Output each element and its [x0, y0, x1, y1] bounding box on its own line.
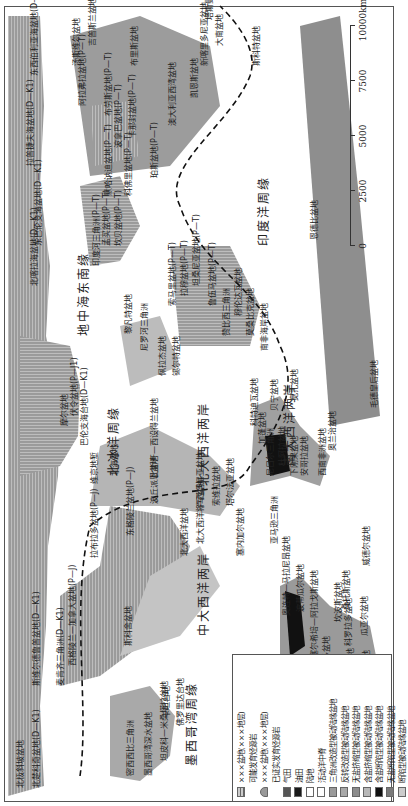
- basin-label: 卡坦台地: [162, 686, 171, 718]
- basin-label: 北大西洋盆地: [180, 508, 189, 556]
- legend-row: 含盐挤缩型被动陆缘盆地: [362, 659, 374, 797]
- oil-swatch: [294, 787, 302, 797]
- basin-label: 塔尔法亚盆地: [226, 458, 235, 506]
- basin-label: 赞比西三角洲: [222, 288, 231, 336]
- legend-row: 已证实发育烃源岩: [270, 659, 282, 797]
- basin-label: 墨西哥湾深水盆地: [144, 712, 153, 776]
- legend-row: 可能发育烃源岩: [247, 659, 259, 797]
- basin-label: 西南非洲盆地: [318, 428, 327, 476]
- basin-label: 下刚果盆地: [290, 436, 299, 476]
- basin-label: 索维拉盆地: [212, 466, 221, 506]
- legend-row: 无盐挤缩型被动陆缘盆地: [350, 659, 362, 797]
- basin-label: 贝宁盆地: [270, 379, 279, 411]
- basin-label: 坎贝盆地(P—T): [114, 190, 123, 246]
- basin-label: 北极斜坡盆地: [16, 740, 25, 788]
- basin-label: 拉穆盆地(P—T): [180, 240, 189, 296]
- basin-label: 穆伦达瓦盆地: [234, 268, 243, 316]
- basin-label: 孟买盆地(P—T): [102, 190, 111, 246]
- basin-label: 默哈讷迪盆地(P—T): [104, 124, 113, 196]
- basin-label: 加蓬盆地: [258, 412, 267, 444]
- indian-ocean-label: 印度洋周缘: [260, 176, 269, 246]
- gulf-mexico-label: 墨西哥湾周缘: [188, 682, 197, 766]
- basin-label: 黎凡特盆地: [124, 294, 133, 334]
- basin-label: 科特迪瓦盆地: [250, 378, 259, 426]
- land-swatch: [306, 787, 314, 797]
- basin-label: 维京地堑: [90, 452, 99, 484]
- ridge-swatch: [317, 787, 325, 797]
- basin-label: 尼日尔三角洲: [266, 428, 275, 476]
- legend-row: 气田: [281, 659, 293, 797]
- legend-row: ×××盆地(×××地层): [235, 659, 247, 797]
- basin-label: 巴伦支海台地(D—K1): [80, 367, 89, 446]
- basin-label: 锡尔特盆地: [172, 336, 181, 376]
- hatch-h-swatch: [237, 787, 245, 797]
- basin-label: 摩尔盆地: [60, 394, 69, 426]
- basin-label: 鲁伍马盆地(P—T): [208, 242, 217, 306]
- basin-label: 佛罗里达台地: [176, 678, 185, 726]
- legend-row: 活动洋中脊: [316, 659, 328, 797]
- basin-label: 科佛里盆地(P—T): [124, 132, 133, 196]
- basin-label: 珀斯盆地(P—T): [150, 122, 159, 178]
- basin-label: 卡那封盆地(P—T): [128, 74, 137, 138]
- basin-label: 莫桑比克盆地: [246, 288, 255, 336]
- basin-label: 东西伯利亚海盆地(D—K1): [30, 0, 39, 76]
- basin-label: 塔斯曼盆地: [205, 0, 214, 20]
- basin-label: 波拿巴盆地(P—T): [114, 84, 123, 148]
- basin-label: 拉布拉多盆地(P—J): [90, 489, 99, 558]
- basin-label: 印度河三角洲(P—T): [92, 194, 101, 266]
- gas-swatch: [283, 787, 291, 797]
- basin-label: 尼罗河三角洲: [140, 303, 149, 351]
- basin-label: 汤斯维尔盆地: [72, 18, 81, 66]
- basin-label: 拉普捷夫海盆地(D—K1): [26, 79, 35, 166]
- basin-label: 西格陵兰—加拿大盆地(P—J): [68, 565, 77, 666]
- legend-row: ×××盆地(×××地层): [258, 659, 270, 797]
- basin-label: 索马里盆地(P—T): [168, 242, 177, 306]
- basin-label: 吉普斯兰盆地: [88, 0, 97, 46]
- basin-label: 布里斯盆地: [130, 26, 139, 66]
- basin-label: 瓜亚尔盆地: [360, 596, 369, 636]
- basin-label: 伏令盆地(P—J1): [70, 357, 79, 416]
- basin-label: 北楚科奇盆地(D—K1): [32, 709, 41, 788]
- basin-label: 亚马逊三角洲: [270, 496, 279, 544]
- basin-label: 恩德比盆地: [310, 200, 319, 240]
- basin-label: 斯科特盆地: [252, 26, 261, 66]
- basin-label: 布劳斯盆地(P—T): [104, 52, 113, 116]
- legend-row: 陆地: [304, 659, 316, 797]
- basin-label: 奥连特—马拉尼昂盆地: [282, 536, 291, 616]
- basin-label: 威德尔盆地: [362, 526, 371, 566]
- basin-label: 东格陵兰盆地(P—J): [126, 467, 135, 536]
- scale-bar: 0 2500 5000 7500 10000km: [350, 16, 380, 246]
- basin-label: 卢西塔尼亚盆地: [196, 452, 205, 508]
- basin-label: 毛德皇后盆地: [370, 360, 379, 408]
- basin-label: 北海盆地: [110, 444, 119, 476]
- basin-label: 安哥拉盆地: [300, 436, 309, 476]
- basin-label: 凯恩斯盆地: [190, 58, 199, 98]
- central-atlantic-label: 中大西洋两岸: [200, 552, 209, 636]
- basin-label: 大南盆地: [215, 14, 224, 46]
- basin-label: 奥兰治盆地: [328, 411, 337, 451]
- basin-label: 南非海岸盆地: [260, 303, 269, 351]
- basin-label: 杜阿拉盆地: [278, 426, 287, 466]
- basin-label: 塞内加尔盆地: [236, 508, 245, 556]
- basin-label: 斯科舍盆地: [124, 606, 133, 646]
- basin-label: 佩拉杰盆地: [158, 336, 167, 376]
- basin-label: 澳大利亚西湾盆地: [168, 62, 177, 126]
- basin-label: 坦桑尼亚盆地(P—T): [192, 214, 201, 286]
- legend-row: 反转改造型被动陆缘盆地: [339, 659, 351, 797]
- legend-row: 无盐断陷型被动陆缘盆地: [385, 659, 397, 797]
- legend-row: 断陷型被动陆缘盆地: [396, 659, 408, 797]
- legend-row: 三角洲改造型被动陆缘盆地: [327, 659, 339, 797]
- basin-label: 塞尔希培—阿拉戈斯盆地: [310, 570, 319, 658]
- basin-label: 波蒂瓜尔盆地: [296, 564, 305, 612]
- legend-row: 油田: [293, 659, 305, 797]
- basin-label: 密西西比三角洲: [126, 720, 135, 776]
- basin-label: 北喀拉海盆地(D—K1): [30, 207, 39, 286]
- mediterranean-label: 地中海东南缘: [80, 252, 89, 336]
- basin-label: 波丘派恩盆地: [150, 456, 159, 504]
- basin-label: 麦肯齐三角洲(D—K1): [56, 607, 65, 686]
- dome-swatch: [260, 787, 268, 797]
- basin-label: 斯维尔德鲁普盆地(D—K1): [32, 591, 41, 686]
- legend-row: 含盐断陷型被动陆缘盆地: [373, 659, 385, 797]
